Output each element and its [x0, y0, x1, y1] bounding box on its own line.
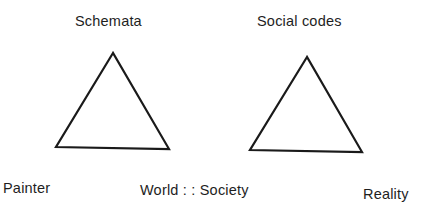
- right-triangle: [250, 57, 362, 152]
- painter-label: Painter: [3, 181, 50, 196]
- reality-label: Reality: [363, 187, 409, 202]
- world-society-label: World : : Society: [140, 183, 249, 198]
- social-codes-label: Social codes: [257, 14, 342, 29]
- schemata-label: Schemata: [75, 14, 142, 29]
- left-triangle: [56, 53, 169, 149]
